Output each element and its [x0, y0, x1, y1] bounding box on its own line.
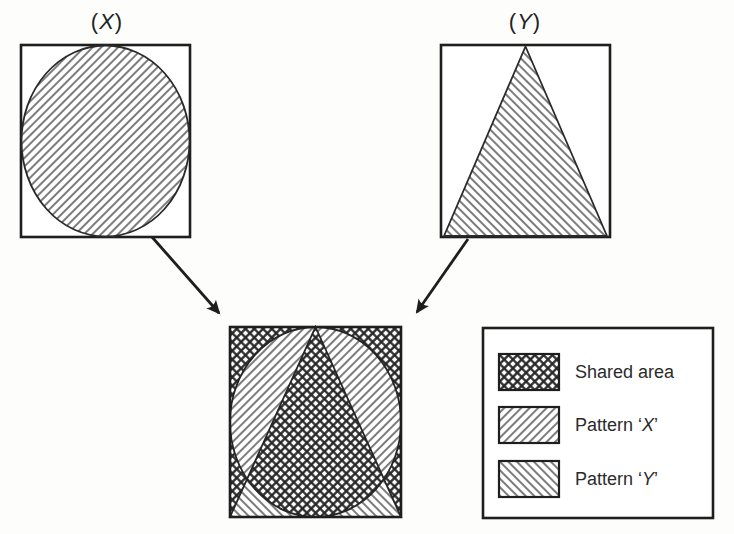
picture-y	[441, 45, 610, 237]
picture-y-label-symbol: Y	[517, 9, 533, 34]
picture-x-label-close: )	[115, 9, 123, 34]
legend-label-pattern-y: Pattern ‘Y’	[575, 468, 658, 490]
legend-swatch-pattern-x	[499, 407, 559, 443]
legend-swatch-shared-area	[499, 354, 559, 390]
arrow-y-to-combined	[417, 239, 468, 312]
legend-label-pattern-y-symbol: Y	[642, 469, 654, 489]
legend-swatch-pattern-y	[499, 461, 559, 497]
legend-label-pattern-x: Pattern ‘X’	[575, 414, 658, 436]
picture-y-label-open: (	[509, 9, 517, 34]
legend-label-pattern-x-suffix: ’	[654, 415, 658, 435]
picture-y-label: (Y)	[470, 9, 580, 35]
legend-label-shared-area-text: Shared area	[575, 362, 674, 382]
arrow-x-to-combined	[152, 237, 219, 313]
legend-label-shared-area: Shared area	[575, 361, 674, 383]
picture-y-label-close: )	[533, 9, 541, 34]
picture-x-label-symbol: X	[99, 9, 115, 34]
legend-label-pattern-y-suffix: ’	[654, 469, 658, 489]
diagram-graphics	[0, 0, 734, 534]
picture-x-label: (X)	[52, 9, 162, 35]
legend-label-pattern-y-prefix: Pattern ‘	[575, 469, 642, 489]
combined-picture	[230, 327, 401, 517]
legend-label-pattern-x-symbol: X	[642, 415, 654, 435]
picture-x-label-open: (	[91, 9, 99, 34]
picture-x-circle-hatched	[22, 46, 190, 237]
legend-label-pattern-x-prefix: Pattern ‘	[575, 415, 642, 435]
figure-canvas: (X) (Y) Shared area Pattern ‘X’ Pattern …	[0, 0, 734, 534]
picture-x	[21, 45, 190, 237]
